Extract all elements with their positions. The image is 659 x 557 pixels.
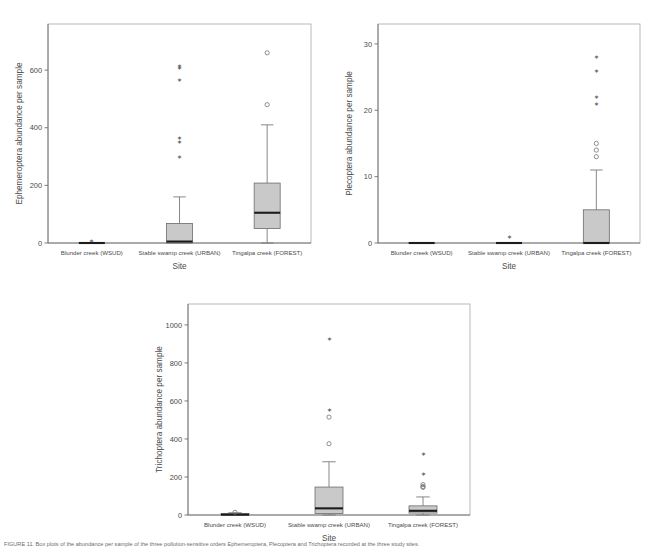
- boxplot-group: ∗: [79, 238, 105, 244]
- y-tick-label: 20: [364, 106, 372, 115]
- boxplot-group: ∗: [496, 234, 522, 243]
- x-category-label: Blunder creek (WSUD): [391, 249, 453, 256]
- x-category-label: Tingalpa creek (FOREST): [388, 521, 458, 528]
- x-category-label: Tingalpa creek (FOREST): [232, 249, 302, 256]
- figure-caption: FIGURE 11. Box plots of the abundance pe…: [0, 541, 659, 557]
- outlier-star: ∗: [327, 407, 332, 413]
- outlier-circle: [594, 141, 598, 145]
- outlier-circle: [327, 415, 331, 419]
- y-tick-label: 400: [170, 435, 182, 444]
- outlier-star: ∗: [327, 336, 332, 342]
- outlier-star: ∗: [89, 238, 94, 244]
- box-rect: [315, 487, 343, 513]
- outlier-star: ∗: [594, 94, 599, 100]
- chart-trichoptera: 02004006008001000Blunder creek (WSUD)∗∗S…: [140, 290, 500, 530]
- y-axis-title: Ephemeroptera abundance per sample: [15, 62, 24, 204]
- outlier-star: ∗: [177, 77, 182, 83]
- y-tick-label: 1000: [166, 321, 182, 330]
- x-category-label: Stable swamp creek (URBAN): [139, 249, 221, 256]
- outlier-star: ∗: [421, 471, 426, 477]
- x-axis-title: Site: [172, 262, 187, 271]
- y-tick-label: 400: [30, 123, 42, 132]
- chart-ephemeroptera: 0200400600∗Blunder creek (WSUD)∗∗∗∗∗∗Sta…: [0, 0, 330, 290]
- y-tick-label: 200: [170, 473, 182, 482]
- outlier-star: ∗: [177, 154, 182, 160]
- outlier-circle: [327, 442, 331, 446]
- panel-plecoptera: 0102030Blunder creek (WSUD)∗Stable swamp…: [330, 0, 659, 290]
- outlier-star: ∗: [177, 65, 182, 71]
- box-rect: [583, 210, 609, 243]
- y-tick-label: 600: [30, 66, 42, 75]
- outlier-star: ∗: [594, 68, 599, 74]
- y-tick-label: 0: [38, 239, 42, 248]
- y-tick-label: 0: [368, 239, 372, 248]
- panel-ephemeroptera: 0200400600∗Blunder creek (WSUD)∗∗∗∗∗∗Sta…: [0, 0, 330, 290]
- y-tick-label: 0: [178, 511, 182, 520]
- y-axis-title: Trichoptera abundance per sample: [155, 346, 164, 473]
- outlier-star: ∗: [594, 54, 599, 60]
- y-tick-label: 800: [170, 359, 182, 368]
- outlier-star: ∗: [177, 139, 182, 145]
- x-category-label: Stable swamp creek (URBAN): [468, 249, 550, 256]
- box-rect: [254, 183, 280, 229]
- boxplot-group: ∗∗∗∗∗∗: [167, 63, 193, 243]
- boxplot-group: ∗∗∗∗: [583, 54, 609, 243]
- outlier-star: ∗: [594, 101, 599, 107]
- y-tick-label: 600: [170, 397, 182, 406]
- y-axis-title: Plecoptera abundance per sample: [345, 71, 354, 196]
- y-tick-label: 30: [364, 40, 372, 49]
- x-axis-title: Site: [502, 262, 517, 271]
- y-tick-label: 10: [364, 172, 372, 181]
- outlier-star: ∗: [507, 234, 512, 240]
- panel-trichoptera: 02004006008001000Blunder creek (WSUD)∗∗S…: [140, 290, 500, 530]
- chart-plecoptera: 0102030Blunder creek (WSUD)∗Stable swamp…: [330, 0, 659, 290]
- outlier-circle: [265, 103, 269, 107]
- x-category-label: Blunder creek (WSUD): [61, 249, 123, 256]
- box-rect: [409, 506, 437, 513]
- x-category-label: Tingalpa creek (FOREST): [561, 249, 631, 256]
- x-category-label: Blunder creek (WSUD): [204, 521, 266, 528]
- y-tick-label: 200: [30, 181, 42, 190]
- boxplot-group: [254, 51, 280, 243]
- boxplot-group: [221, 510, 249, 515]
- outlier-star: ∗: [421, 451, 426, 457]
- outlier-circle: [594, 155, 598, 159]
- outlier-circle: [265, 51, 269, 55]
- x-category-label: Stable swamp creek (URBAN): [288, 521, 370, 528]
- boxplot-group: ∗∗: [409, 451, 437, 515]
- outlier-circle: [594, 148, 598, 152]
- box-rect: [167, 223, 193, 243]
- boxplot-group: ∗∗: [315, 336, 343, 515]
- figure-boxplots: 0200400600∗Blunder creek (WSUD)∗∗∗∗∗∗Sta…: [0, 0, 659, 557]
